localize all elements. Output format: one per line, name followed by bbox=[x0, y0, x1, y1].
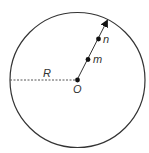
circle-diagram: R O m n bbox=[0, 0, 149, 153]
point-m bbox=[86, 57, 91, 62]
center-point bbox=[75, 78, 80, 83]
point-m-label: m bbox=[93, 53, 102, 65]
diagram-canvas: R O m n bbox=[0, 0, 149, 153]
ray-arrow bbox=[77, 21, 107, 80]
point-n bbox=[96, 37, 101, 42]
point-n-label: n bbox=[103, 33, 109, 45]
radius-label: R bbox=[43, 67, 51, 79]
center-label: O bbox=[73, 83, 82, 95]
